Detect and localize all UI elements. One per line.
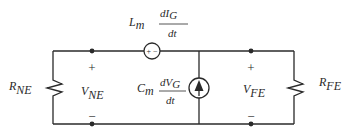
right-resistor — [288, 51, 303, 124]
rne-label: RNE — [8, 79, 32, 97]
current-source-numerator: dVG — [160, 76, 180, 90]
vfe-plus: + — [247, 60, 254, 75]
circuit-diagram: + − + VNE − + VFE − RNE RFE Lm dIG dt Cm… — [0, 0, 352, 134]
vne-label: VNE — [81, 84, 104, 102]
node-dot-fe-top — [249, 49, 254, 54]
voltage-source-numerator: dIG — [160, 7, 177, 21]
voltage-source-coef: Lm — [128, 15, 145, 32]
vfe-minus: − — [247, 109, 254, 124]
current-source-denominator: dt — [166, 94, 176, 106]
vne-plus: + — [88, 60, 95, 75]
vne-minus: − — [88, 109, 95, 124]
voltage-source-polarity: + − — [146, 47, 158, 56]
node-dot-ne-top — [90, 49, 95, 54]
left-resistor — [47, 51, 62, 124]
vfe-label: VFE — [243, 82, 266, 100]
voltage-source-denominator: dt — [168, 27, 178, 39]
rfe-label: RFE — [318, 75, 342, 93]
current-source-coef: Cm — [137, 81, 154, 98]
